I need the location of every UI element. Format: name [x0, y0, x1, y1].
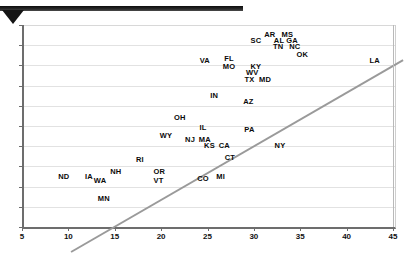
- x-tick-label-20: 20: [146, 233, 176, 241]
- trendline: [46, 50, 410, 252]
- data-point-ia: IA: [85, 173, 93, 181]
- data-point-pa: PA: [244, 126, 254, 134]
- top-banner-bar: [0, 6, 243, 11]
- x-tick-label-35: 35: [285, 233, 315, 241]
- x-tick-label-15: 15: [100, 233, 130, 241]
- x-tick-label-30: 30: [239, 233, 269, 241]
- data-point-ks: KS: [204, 142, 215, 150]
- x-tick-5: [22, 227, 23, 231]
- y-tick-4: [19, 146, 22, 147]
- y-tick-8: [19, 65, 22, 66]
- data-point-oh: OH: [174, 114, 186, 122]
- data-point-la: LA: [369, 58, 379, 66]
- x-tick-45: [393, 227, 394, 231]
- data-point-in: IN: [210, 92, 218, 100]
- data-point-nj: NJ: [185, 136, 195, 144]
- data-point-vt: VT: [153, 177, 163, 185]
- data-point-co: CO: [197, 175, 209, 183]
- data-point-md: MD: [259, 76, 271, 84]
- data-point-ok: OK: [296, 52, 308, 60]
- gridline-y-10: [24, 25, 395, 26]
- x-tick-10: [68, 227, 69, 231]
- data-point-wy: WY: [160, 132, 172, 140]
- scatter-plot-screenshot: NDIAWAMNNHRIORVTWYOHINNJILMAKSCACTCOMIPA…: [0, 0, 410, 259]
- data-point-mn: MN: [98, 195, 110, 203]
- gridline-y-9: [24, 45, 395, 46]
- y-tick-5: [19, 126, 22, 127]
- data-point-sc: SC: [250, 37, 261, 45]
- x-tick-20: [161, 227, 162, 231]
- y-tick-7: [19, 86, 22, 87]
- x-tick-25: [208, 227, 209, 231]
- data-point-nh: NH: [110, 169, 121, 177]
- plot-right-border: [393, 25, 394, 227]
- y-tick-1: [19, 207, 22, 208]
- trendline-segment: [71, 60, 403, 252]
- y-tick-9: [19, 45, 22, 46]
- plot-area: NDIAWAMNNHRIORVTWYOHINNJILMAKSCACTCOMIPA…: [22, 25, 396, 229]
- y-tick-3: [19, 166, 22, 167]
- data-point-ny: NY: [275, 142, 286, 150]
- y-tick-6: [19, 106, 22, 107]
- x-tick-40: [347, 227, 348, 231]
- x-tick-label-5: 5: [7, 233, 37, 241]
- x-tick-label-25: 25: [193, 233, 223, 241]
- data-point-mi: MI: [216, 173, 225, 181]
- data-point-tn: TN: [273, 43, 283, 51]
- data-point-il: IL: [199, 124, 206, 132]
- data-point-ct: CT: [225, 155, 235, 163]
- data-point-mo: MO: [223, 64, 235, 72]
- x-tick-35: [300, 227, 301, 231]
- x-tick-label-40: 40: [332, 233, 362, 241]
- x-tick-30: [254, 227, 255, 231]
- x-tick-label-10: 10: [53, 233, 83, 241]
- y-tick-2: [19, 187, 22, 188]
- data-point-az: AZ: [243, 98, 253, 106]
- data-point-ca: CA: [219, 142, 230, 150]
- data-point-ri: RI: [136, 157, 144, 165]
- down-triangle-icon: [2, 10, 24, 24]
- data-point-va: VA: [200, 58, 210, 66]
- y-tick-10: [19, 25, 22, 26]
- data-point-nd: ND: [58, 173, 69, 181]
- data-point-wa: WA: [94, 177, 106, 185]
- x-tick-15: [115, 227, 116, 231]
- data-point-tx: TX: [244, 76, 254, 84]
- x-tick-label-45: 45: [378, 233, 408, 241]
